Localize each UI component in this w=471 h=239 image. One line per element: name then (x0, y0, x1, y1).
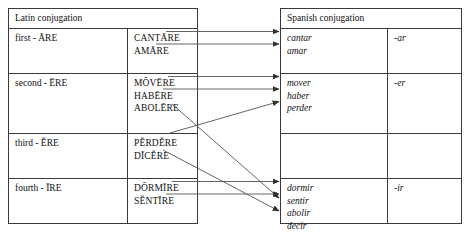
latin-conjugation-label-cell: first - ĀRE (9, 29, 127, 73)
spanish-row-empty (281, 134, 461, 179)
latin-verb: DĪCĔRE (134, 150, 199, 163)
latin-conjugation-label: fourth - ĪRE (15, 183, 61, 193)
spanish-suffix-cell: -ar (387, 29, 463, 73)
spanish-verb: cantar (287, 32, 387, 45)
spanish-row-ir: dormir sentir abolir decir -ir (281, 179, 461, 224)
latin-verb: DŎRMĪRE (134, 182, 199, 195)
spanish-table-header-row: Spanish conjugation (281, 9, 461, 29)
latin-header-cell: Latin conjugation (9, 9, 127, 28)
latin-verb: HABĒRE (134, 90, 199, 103)
latin-conjugation-table: Latin conjugation first - ĀRE CANTĀRE AM… (8, 8, 198, 224)
spanish-verbs-cell: cantar amar (281, 29, 387, 73)
latin-header-spacer-cell (127, 9, 199, 28)
spanish-verbs-cell: dormir sentir abolir decir (281, 179, 387, 224)
spanish-row-er: mover haber perder -er (281, 74, 461, 134)
latin-verbs-cell: CANTĀRE AMĀRE (127, 29, 199, 73)
spanish-verb: abolir (287, 207, 387, 220)
spanish-header-spacer-cell (387, 9, 463, 28)
spanish-header-label: Spanish conjugation (287, 13, 364, 23)
spanish-row-ar: cantar amar -ar (281, 29, 461, 74)
spanish-verbs-cell (281, 134, 387, 178)
spanish-verb: decir (287, 220, 387, 233)
latin-row-first: first - ĀRE CANTĀRE AMĀRE (9, 29, 197, 74)
spanish-verb: sentir (287, 195, 387, 208)
latin-header-label: Latin conjugation (15, 13, 82, 23)
spanish-verb: amar (287, 45, 387, 58)
spanish-conjugation-table: Spanish conjugation cantar amar -ar move… (280, 8, 462, 224)
spanish-verb: dormir (287, 182, 387, 195)
latin-conjugation-label-cell: third - ĔRE (9, 134, 127, 178)
latin-verb: ABOLĒRE (134, 102, 199, 115)
latin-conjugation-label-cell: second - ĒRE (9, 74, 127, 133)
spanish-suffix-cell: -ir (387, 179, 463, 224)
latin-row-third: third - ĔRE PĔRDĔRE DĪCĔRE (9, 134, 197, 179)
latin-table-header-row: Latin conjugation (9, 9, 197, 29)
spanish-verbs-cell: mover haber perder (281, 74, 387, 133)
spanish-suffix-label: -er (394, 78, 405, 88)
spanish-suffix-label: -ir (394, 183, 404, 193)
spanish-suffix-label: -ar (394, 33, 406, 43)
latin-conjugation-label-cell: fourth - ĪRE (9, 179, 127, 224)
latin-conjugation-label: second - ĒRE (15, 78, 67, 88)
latin-verb: SĔNTĪRE (134, 195, 199, 208)
latin-verbs-cell: MŎVĒRE HABĒRE ABOLĒRE (127, 74, 199, 133)
spanish-suffix-cell (387, 134, 463, 178)
latin-verb: CANTĀRE (134, 32, 199, 45)
latin-conjugation-label: third - ĔRE (15, 138, 59, 148)
spanish-header-cell: Spanish conjugation (281, 9, 387, 28)
spanish-verb: perder (287, 102, 387, 115)
latin-verb: MŎVĒRE (134, 77, 199, 90)
conjugation-diagram: Latin conjugation first - ĀRE CANTĀRE AM… (0, 0, 471, 239)
latin-verb: PĔRDĔRE (134, 137, 199, 150)
latin-row-fourth: fourth - ĪRE DŎRMĪRE SĔNTĪRE (9, 179, 197, 224)
latin-verbs-cell: PĔRDĔRE DĪCĔRE (127, 134, 199, 178)
spanish-verb: mover (287, 77, 387, 90)
latin-verbs-cell: DŎRMĪRE SĔNTĪRE (127, 179, 199, 224)
latin-conjugation-label: first - ĀRE (15, 33, 57, 43)
spanish-verb: haber (287, 90, 387, 103)
latin-verb: AMĀRE (134, 45, 199, 58)
latin-row-second: second - ĒRE MŎVĒRE HABĒRE ABOLĒRE (9, 74, 197, 134)
spanish-suffix-cell: -er (387, 74, 463, 133)
